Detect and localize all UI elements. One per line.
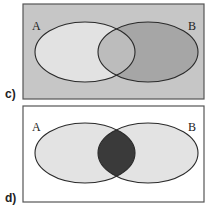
- set-a-label-d: A: [32, 120, 41, 134]
- venn-panel-c: A B c): [0, 0, 207, 103]
- panel-label-d: d): [5, 191, 16, 205]
- venn-diagram-d: A B: [0, 103, 207, 206]
- venn-panel-d: A B d): [0, 103, 207, 206]
- set-a-label-c: A: [32, 19, 41, 33]
- panel-label-c: c): [5, 87, 16, 101]
- set-b-label-d: B: [188, 120, 196, 134]
- venn-diagram-c: A B: [0, 0, 207, 103]
- set-b-label-c: B: [188, 19, 196, 33]
